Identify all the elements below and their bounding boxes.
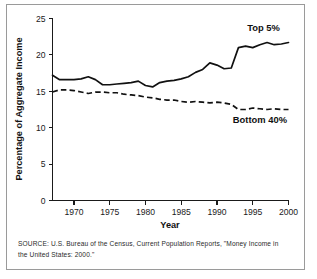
x-tick-label: 2000 <box>279 207 298 217</box>
x-tick-label: 1980 <box>136 207 155 217</box>
y-tick-label: 10 <box>36 123 46 133</box>
x-tick-label: 1990 <box>207 207 226 217</box>
y-tick-label: 15 <box>36 87 46 97</box>
x-tick-label: 1995 <box>243 207 262 217</box>
y-axis-ticks <box>49 19 53 201</box>
x-axis-ticks <box>74 201 289 205</box>
series-line-top-5-percent <box>53 43 289 87</box>
series-line-bottom-40-percent <box>53 90 289 110</box>
x-tick-label: 1985 <box>172 207 191 217</box>
y-tick-label: 0 <box>41 196 46 206</box>
x-axis-title: Year <box>160 220 180 230</box>
x-axis-tick-labels: 1970197519801985199019952000 <box>64 207 298 217</box>
x-tick-label: 1975 <box>100 207 119 217</box>
series-annotation-label: Top 5% <box>247 22 280 33</box>
chart-figure: 0510152025 1970197519801985199019952000 … <box>0 0 317 279</box>
y-tick-label: 20 <box>36 50 46 60</box>
y-axis-title: Percentage of Aggregate Income <box>14 37 24 180</box>
y-axis-tick-labels: 0510152025 <box>36 14 46 206</box>
y-tick-label: 25 <box>36 14 46 24</box>
source-note: SOURCE: U.S. Bureau of the Census, Curre… <box>18 238 286 261</box>
x-tick-label: 1970 <box>64 207 83 217</box>
data-series <box>53 43 289 110</box>
y-tick-label: 5 <box>41 159 46 169</box>
series-annotation-label: Bottom 40% <box>233 114 288 125</box>
